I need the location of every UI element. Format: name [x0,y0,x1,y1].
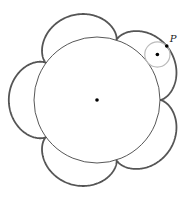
rolling-center-dot [156,53,160,57]
epicycloid-diagram: P [0,0,182,200]
diagram-canvas [0,0,182,200]
center-dot [95,98,99,102]
point-p-dot [165,44,169,48]
point-p-label: P [170,33,177,44]
